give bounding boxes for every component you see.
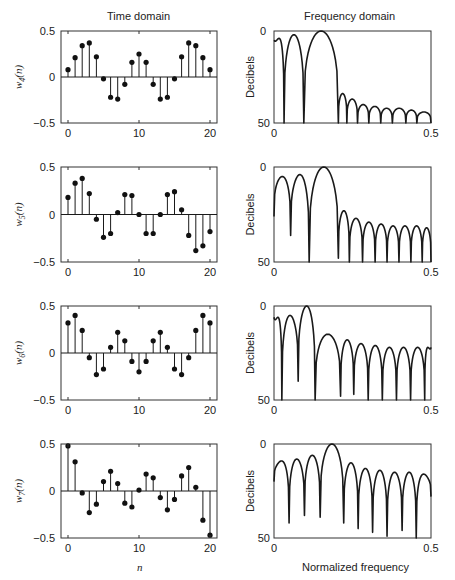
y-tick-label: 0	[49, 71, 55, 83]
stem-marker	[158, 212, 163, 217]
stem-marker	[136, 51, 141, 56]
stem-marker	[73, 313, 78, 318]
y-tick-label: −0.5	[33, 532, 55, 544]
stem-marker	[179, 54, 184, 59]
x-tick-label: 0	[65, 266, 71, 278]
stem-marker	[80, 43, 85, 48]
y-tick-label: 0	[260, 300, 266, 312]
stem-marker	[200, 518, 205, 523]
y-tick-label: 50	[258, 394, 270, 406]
x-tick-label: 20	[204, 542, 216, 554]
stem-marker	[165, 507, 170, 512]
x-tick-label: 0.5	[423, 542, 438, 554]
x-tick-label: 10	[133, 127, 145, 139]
x-tick-label: 0	[271, 127, 277, 139]
stem-marker	[193, 43, 198, 48]
magnitude-response-W4	[274, 31, 431, 123]
stem-marker	[73, 55, 78, 60]
stem-marker	[151, 338, 156, 343]
stem-marker	[193, 485, 198, 490]
x-tick-label: 0.5	[423, 266, 438, 278]
y-axis-label-decibels: Decibels	[244, 55, 256, 98]
stem-marker	[80, 328, 85, 333]
charts-canvas: 010200.50−0.5w4(n)05000.5Decibels010200.…	[0, 0, 455, 580]
stem-marker	[186, 355, 191, 360]
freq-plot-frame-W4	[274, 31, 431, 123]
y-tick-label: 0	[49, 209, 55, 221]
magnitude-response-W7	[274, 444, 431, 538]
stem-marker	[172, 189, 177, 194]
stem-marker	[108, 95, 113, 100]
stem-marker	[200, 313, 205, 318]
stem-marker	[122, 82, 127, 87]
stem-marker	[115, 210, 120, 215]
stem-marker	[158, 96, 163, 101]
stem-marker	[115, 481, 120, 486]
stem-marker	[65, 195, 70, 200]
stem-marker	[151, 475, 156, 480]
stem-marker	[200, 243, 205, 248]
y-axis-label-decibels: Decibels	[244, 193, 256, 236]
stem-marker	[115, 96, 120, 101]
stem-marker	[87, 355, 92, 360]
stem-marker	[122, 338, 127, 343]
stem-marker	[158, 330, 163, 335]
x-tick-label: 0.5	[423, 127, 438, 139]
stem-marker	[87, 191, 92, 196]
stem-marker	[158, 495, 163, 500]
stem-marker	[151, 82, 156, 87]
stem-marker	[179, 207, 184, 212]
x-tick-label: 20	[204, 266, 216, 278]
y-tick-label: −0.5	[33, 117, 55, 129]
x-tick-label: 0.5	[423, 404, 438, 416]
stem-marker	[151, 231, 156, 236]
y-tick-label: −0.5	[33, 256, 55, 268]
x-tick-label: 20	[204, 127, 216, 139]
stem-marker	[94, 372, 99, 377]
stem-marker	[172, 76, 177, 81]
stem-marker	[179, 372, 184, 377]
y-tick-label: 0.5	[40, 161, 55, 173]
stem-marker	[94, 54, 99, 59]
stem-marker	[172, 366, 177, 371]
stem-marker	[108, 345, 113, 350]
stem-marker	[122, 501, 127, 506]
stem-marker	[165, 95, 170, 100]
stem-marker	[172, 497, 177, 502]
x-tick-label: 0	[271, 542, 277, 554]
stem-marker	[129, 60, 134, 65]
stem-marker	[186, 40, 191, 45]
y-tick-label: 0.5	[40, 300, 55, 312]
x-tick-label: 0	[65, 542, 71, 554]
y-tick-label: 0	[49, 485, 55, 497]
stem-marker	[136, 487, 141, 492]
y-tick-label: 0	[260, 161, 266, 173]
stem-marker	[80, 490, 85, 495]
y-tick-label: 50	[258, 256, 270, 268]
stem-marker	[207, 67, 212, 72]
stem-marker	[165, 192, 170, 197]
y-tick-label: −0.5	[33, 394, 55, 406]
y-tick-label: 0.5	[40, 438, 55, 450]
stem-marker	[129, 504, 134, 509]
x-tick-label: 20	[204, 404, 216, 416]
stem-marker	[65, 67, 70, 72]
stem-marker	[207, 320, 212, 325]
stem-marker	[186, 465, 191, 470]
y-tick-label: 50	[258, 117, 270, 129]
stem-marker	[101, 366, 106, 371]
y-axis-label-decibels: Decibels	[244, 331, 256, 374]
x-tick-label: 0	[65, 127, 71, 139]
y-tick-label: 0	[49, 347, 55, 359]
stem-marker	[179, 473, 184, 478]
x-tick-label: 0	[271, 404, 277, 416]
stem-marker	[108, 469, 113, 474]
y-axis-label-w4: w4(n)	[12, 65, 27, 90]
stem-marker	[136, 212, 141, 217]
stem-marker	[87, 510, 92, 515]
x-tick-label: 10	[133, 404, 145, 416]
magnitude-response-W6	[274, 306, 431, 400]
stem-marker	[94, 217, 99, 222]
stem-marker	[144, 471, 149, 476]
x-tick-label: 0	[65, 404, 71, 416]
